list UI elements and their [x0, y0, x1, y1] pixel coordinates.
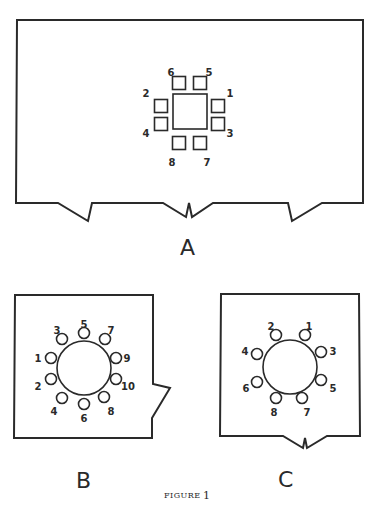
pin-label: 3	[54, 325, 61, 336]
pin-label: 8	[271, 407, 278, 418]
pin-b-10	[111, 374, 122, 385]
pin-a-6	[173, 77, 186, 90]
pin-a-2	[155, 100, 168, 113]
pin-label: 6	[168, 67, 175, 78]
pin-b-1	[46, 353, 57, 364]
panel-c-pins: 12345678	[242, 321, 337, 418]
pin-label: 2	[143, 88, 150, 99]
pin-label: 1	[306, 321, 313, 332]
panel-a-outline	[16, 20, 363, 221]
pin-b-9	[111, 353, 122, 364]
pin-label: 5	[330, 383, 337, 394]
pin-label: 7	[304, 407, 311, 418]
pin-label: 7	[108, 325, 115, 336]
panel-c: 12345678 C	[220, 294, 360, 492]
pin-label: 1	[35, 353, 42, 364]
pin-a-5	[194, 77, 207, 90]
panel-c-outline	[220, 294, 360, 448]
pin-b-6	[79, 399, 90, 410]
figure-caption: FIGURE 1	[164, 489, 210, 502]
pin-label: 5	[206, 67, 213, 78]
pin-a-8	[173, 137, 186, 150]
pin-c-8	[271, 393, 282, 404]
caption-number: 1	[203, 489, 210, 502]
pin-a-3	[212, 118, 225, 131]
pin-label: 4	[242, 346, 249, 357]
pin-label: 2	[35, 381, 42, 392]
pin-b-2	[46, 374, 57, 385]
pin-label: 6	[81, 413, 88, 424]
pin-a-4	[155, 118, 168, 131]
pin-label: 10	[121, 381, 135, 392]
pin-label: 5	[81, 319, 88, 330]
panel-a: 12345678 A	[16, 20, 363, 260]
pin-c-6	[252, 377, 263, 388]
pin-c-5	[316, 375, 327, 386]
panel-a-center-square	[173, 94, 207, 129]
panel-c-center-circle	[263, 340, 317, 394]
panel-b-center-circle	[57, 341, 111, 395]
pin-label: 3	[227, 128, 234, 139]
pin-a-1	[212, 100, 225, 113]
pin-label: 6	[243, 383, 250, 394]
pin-c-4	[252, 349, 263, 360]
pin-label: 2	[268, 321, 275, 332]
pin-label: 4	[143, 128, 150, 139]
panel-b: 12345678910 B	[14, 295, 170, 493]
caption-word: FIGURE	[164, 491, 201, 500]
pin-label: 1	[227, 88, 234, 99]
pin-label: 9	[124, 353, 131, 364]
pin-a-7	[194, 137, 207, 150]
pin-b-4	[57, 393, 68, 404]
pin-label: 7	[204, 157, 211, 168]
pin-c-3	[316, 347, 327, 358]
panel-a-pins: 12345678	[143, 67, 234, 168]
panel-b-outline	[14, 295, 170, 438]
figure-1-diagram: 12345678 A 12345678910 B 12345678 C FIGU…	[0, 0, 374, 505]
pin-label: 4	[51, 406, 58, 417]
pin-b-8	[99, 392, 110, 403]
panel-a-label: A	[180, 235, 195, 260]
pin-c-7	[297, 393, 308, 404]
pin-label: 8	[169, 157, 176, 168]
panel-b-pins: 12345678910	[35, 319, 135, 424]
pin-label: 8	[108, 406, 115, 417]
panel-c-label: C	[278, 467, 293, 492]
panel-b-label: B	[76, 468, 91, 493]
pin-label: 3	[330, 346, 337, 357]
